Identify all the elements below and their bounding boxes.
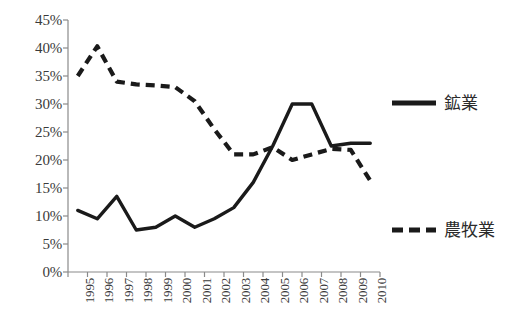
chart-screenshot: 0%5%10%15%20%25%30%35%40%45% 19951996199… bbox=[0, 0, 508, 326]
series-line-1 bbox=[78, 104, 371, 230]
x-tick-label: 1997 bbox=[122, 278, 135, 303]
x-tick-label: 2007 bbox=[317, 278, 330, 303]
x-tick-label: 1998 bbox=[141, 278, 154, 303]
y-tick-label: 15% bbox=[4, 181, 62, 196]
x-tick-label: 1999 bbox=[161, 278, 174, 303]
legend-item-agriculture-livestock: 農牧業 bbox=[392, 222, 495, 239]
y-tick-label: 35% bbox=[4, 69, 62, 84]
series-line-2 bbox=[78, 46, 371, 180]
x-tick-label: 2006 bbox=[297, 278, 310, 303]
chart-svg bbox=[68, 20, 380, 272]
y-tick-label: 0% bbox=[4, 265, 62, 280]
legend-item-mining: 鉱業 bbox=[392, 95, 478, 112]
legend-swatch-solid-line-icon bbox=[392, 101, 436, 106]
y-tick-label: 5% bbox=[4, 237, 62, 252]
y-tick-label: 25% bbox=[4, 125, 62, 140]
y-tick-label: 40% bbox=[4, 41, 62, 56]
x-tick-label: 2002 bbox=[219, 278, 232, 303]
x-tick-label: 1996 bbox=[102, 278, 115, 303]
chart-legend: 鉱業 農牧業 bbox=[392, 0, 508, 326]
x-tick-label: 2009 bbox=[356, 278, 369, 303]
legend-label: 農牧業 bbox=[444, 222, 495, 239]
x-axis: 1995199619971998199920002001200220032004… bbox=[68, 276, 380, 326]
x-tick-label: 2003 bbox=[239, 278, 252, 303]
x-tick-label: 2000 bbox=[180, 278, 193, 303]
x-tick-label: 2005 bbox=[278, 278, 291, 303]
y-tick-label: 30% bbox=[4, 97, 62, 112]
plot-area bbox=[68, 20, 380, 272]
legend-label: 鉱業 bbox=[444, 95, 478, 112]
x-tick-label: 2010 bbox=[375, 278, 388, 303]
y-tick-label: 20% bbox=[4, 153, 62, 168]
x-tick-label: 1995 bbox=[83, 278, 96, 303]
legend-swatch-dashed-line-icon bbox=[392, 228, 436, 233]
y-tick-label: 10% bbox=[4, 209, 62, 224]
y-axis: 0%5%10%15%20%25%30%35%40%45% bbox=[0, 0, 62, 326]
x-tick-label: 2001 bbox=[200, 278, 213, 303]
y-tick-label: 45% bbox=[4, 13, 62, 28]
x-tick-label: 2004 bbox=[258, 278, 271, 303]
x-tick-label: 2008 bbox=[336, 278, 349, 303]
